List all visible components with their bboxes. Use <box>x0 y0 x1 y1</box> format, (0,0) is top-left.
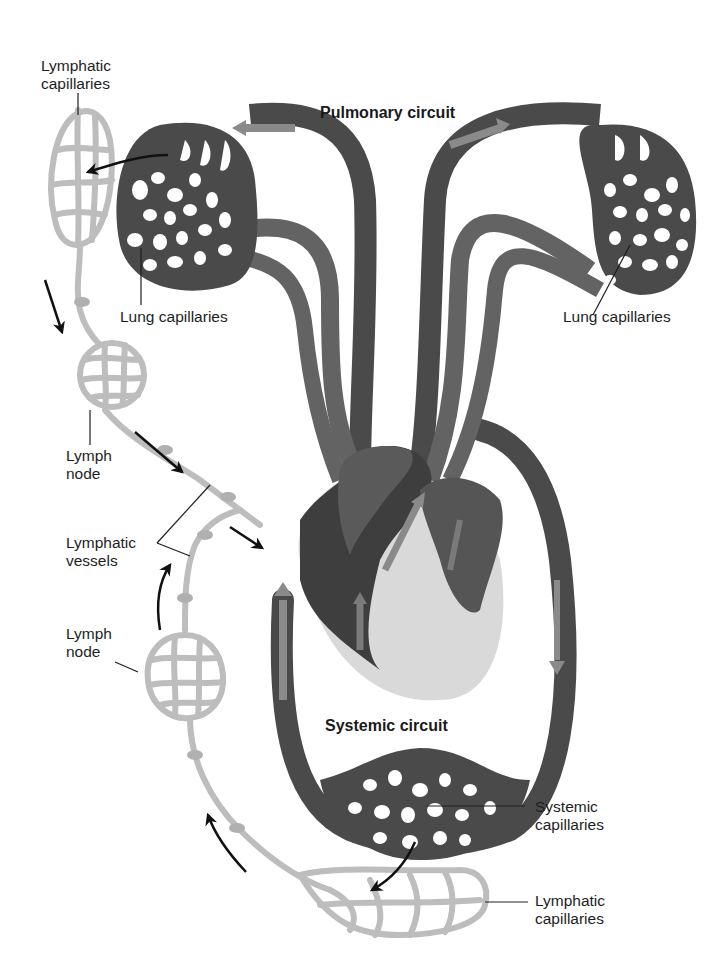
label-lymphatic-capillaries-top: Lymphatic capillaries <box>41 57 111 93</box>
pulmonary-circuit-title: Pulmonary circuit <box>320 104 455 122</box>
label-lymph-node-upper: Lymph node <box>66 447 112 483</box>
arrow-up-lower-vessel <box>158 565 170 630</box>
label-lymph-node-lower: Lymph node <box>66 625 112 661</box>
systemic-circuit-title: Systemic circuit <box>325 717 448 735</box>
label-lung-capillaries-right: Lung capillaries <box>563 308 671 326</box>
label-systemic-capillaries: Systemic capillaries <box>535 798 604 834</box>
lymph-node-lower <box>148 635 224 718</box>
diagram-artwork <box>0 0 725 970</box>
arrow-to-heart <box>230 527 262 548</box>
arrow-down-mid <box>135 432 182 472</box>
label-lung-capillaries-left: Lung capillaries <box>120 308 228 326</box>
lymphatic-vessel-upper <box>105 410 260 525</box>
arrow-down-upper-left <box>45 280 62 332</box>
lymphatic-capillaries-top <box>51 110 112 245</box>
lung-capillary-bed-left <box>116 123 257 291</box>
label-lymphatic-capillaries-bottom: Lymphatic capillaries <box>535 892 605 928</box>
pulmonary-vessels-right <box>420 113 600 480</box>
circulatory-lymphatic-diagram: Pulmonary circuit Systemic circuit Lymph… <box>0 0 725 970</box>
lung-capillary-bed-right <box>579 124 696 295</box>
label-lymphatic-vessels: Lymphatic vessels <box>66 534 136 570</box>
lymph-node-upper <box>80 343 144 407</box>
lymphatic-capillaries-bottom <box>300 869 486 935</box>
